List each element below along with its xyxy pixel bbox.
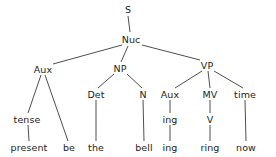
tree-node-the: the [88, 142, 104, 153]
tree-node-nuc: Nuc [122, 34, 141, 45]
edge-nuc-np [121, 46, 128, 62]
tree-node-time: time [234, 89, 256, 100]
edge-s-nuc [128, 16, 130, 32]
tree-node-present: present [11, 142, 48, 153]
tree-node-np: NP [113, 63, 126, 74]
tree-node-s: S [125, 4, 131, 15]
tree-node-bell: bell [135, 142, 153, 153]
tree-edges-layer [0, 0, 276, 157]
edge-aux-be [45, 75, 68, 141]
tree-node-v: V [207, 114, 214, 125]
tree-node-ing-mid: ing [163, 114, 178, 125]
tree-node-ring: ring [201, 142, 220, 153]
edge-tense-present [28, 125, 29, 141]
edge-np-det [98, 74, 114, 88]
tree-node-be: be [63, 142, 75, 153]
edge-time-now [245, 100, 246, 141]
edge-vp-auxr [175, 71, 202, 88]
tree-node-ing-leaf: ing [163, 142, 178, 153]
edge-nuc-aux [53, 45, 122, 64]
tree-node-n: N [139, 89, 146, 100]
tree-node-aux-left: Aux [34, 64, 52, 75]
edge-np-n [127, 74, 142, 88]
tree-node-now: now [236, 142, 256, 153]
tree-node-vp: VP [201, 60, 213, 71]
syntax-tree-diagram: SNucAuxNPVPtensepresentbeDettheNbellAuxi… [0, 0, 276, 157]
tree-node-aux-right: Aux [161, 89, 179, 100]
edge-n-bell [143, 100, 144, 141]
tree-node-tense: tense [14, 114, 41, 125]
edge-aux-tense [28, 75, 41, 113]
edge-nuc-vp [142, 45, 200, 60]
tree-node-mv: MV [203, 89, 218, 100]
edge-vp-time [214, 71, 243, 88]
tree-node-det: Det [87, 89, 104, 100]
edge-vp-mv [208, 71, 210, 88]
